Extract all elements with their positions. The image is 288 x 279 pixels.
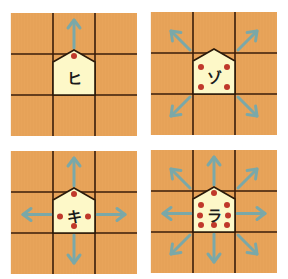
board-hi: ヒ <box>11 13 137 136</box>
piece-label: ゾ <box>207 69 222 87</box>
move-dot-top <box>71 53 77 59</box>
board-zo: ゾ <box>151 12 277 135</box>
piece-label: ラ <box>207 207 222 225</box>
move-dot-top-right <box>224 202 230 208</box>
move-dot-bottom-right <box>224 222 230 228</box>
piece-label: キ <box>67 208 82 226</box>
board-grid: キ <box>11 151 137 274</box>
piece-label: ヒ <box>67 70 82 88</box>
move-dot-top-right <box>224 64 230 70</box>
move-dot-bottom-left <box>198 222 204 228</box>
move-dot-top-left <box>198 202 204 208</box>
move-dot-top <box>211 190 217 196</box>
board-ki: キ <box>11 151 137 274</box>
board-grid: ゾ <box>151 12 277 135</box>
move-dot-right <box>85 214 91 220</box>
board-grid: ヒ <box>11 13 137 136</box>
move-dot-bottom-left <box>198 84 204 90</box>
move-dot-top <box>71 191 77 197</box>
move-dot-top-left <box>198 64 204 70</box>
board-ra: ラ <box>151 150 277 273</box>
move-dot-bottom-right <box>224 84 230 90</box>
move-dot-left <box>197 213 203 219</box>
board-grid: ラ <box>151 150 277 273</box>
move-dot-right <box>225 213 231 219</box>
move-dot-left <box>57 214 63 220</box>
